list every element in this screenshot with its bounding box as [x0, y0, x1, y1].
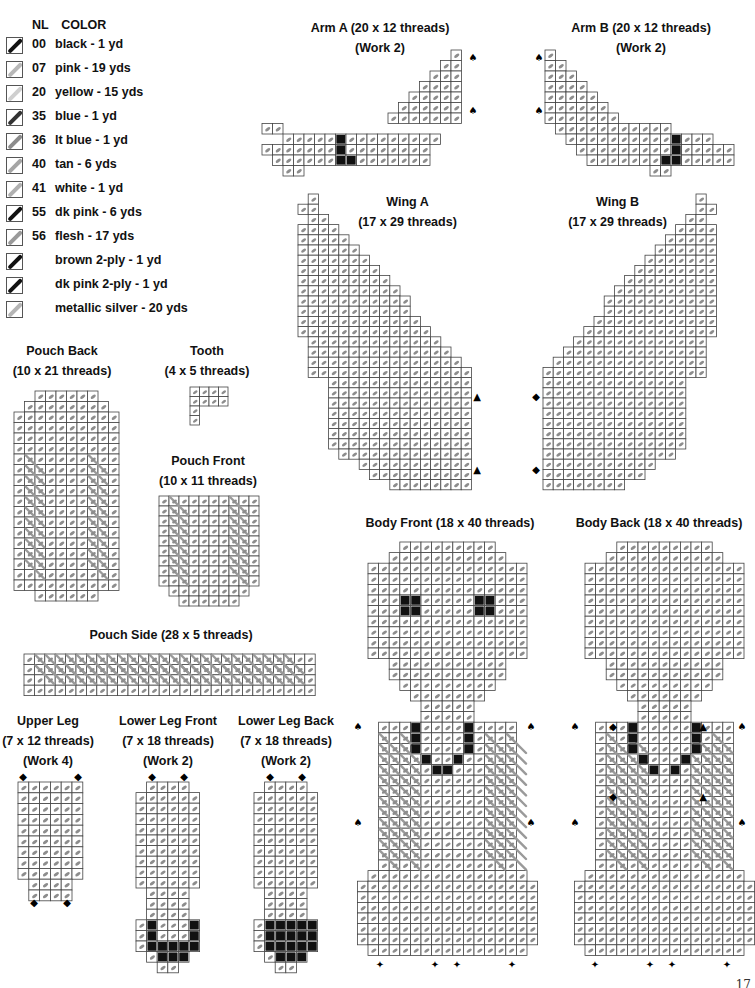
legend-nl: 00 [32, 37, 46, 51]
svg-text:✦: ✦ [591, 959, 599, 970]
svg-text:♠: ♠ [354, 817, 363, 828]
svg-text:◆: ◆ [30, 897, 38, 908]
svg-text:♠: ♠ [571, 817, 580, 828]
arm-b-chart: ♠♠ [535, 48, 755, 166]
svg-text:▲: ▲ [699, 721, 707, 732]
svg-text:◆: ◆ [74, 771, 82, 782]
pouch-side-title: Pouch Side (28 x 5 threads) [60, 625, 282, 645]
svg-text:♠: ♠ [354, 721, 363, 732]
lower-leg-back-title-text: Lower Leg Back [236, 711, 336, 731]
body-back-chart: ♠♠♠♠◆◆▲▲✦✦✦✦ [565, 540, 755, 980]
svg-text:◆: ◆ [609, 721, 617, 732]
legend-color: lt blue - 1 yd [55, 133, 128, 147]
legend-color: brown 2-ply - 1 yd [55, 253, 161, 267]
legend-color: metallic silver - 20 yds [55, 301, 188, 315]
pouch-side-title-text: Pouch Side (28 x 5 threads) [60, 625, 282, 645]
legend-color: white - 1 yd [55, 181, 123, 195]
svg-text:♠: ♠ [535, 105, 544, 116]
yarn-swatch-icon [6, 277, 23, 294]
pouch-front-title-text: Pouch Front [152, 451, 264, 471]
legend-header-nl: NL [32, 18, 49, 32]
svg-text:◆: ◆ [180, 771, 188, 782]
svg-text:✦: ✦ [723, 959, 731, 970]
body-front-chart: ♠♠♠♠✦✦✦✦ [350, 540, 550, 980]
yarn-swatch-icon [6, 133, 23, 150]
tooth-chart [186, 383, 231, 433]
svg-text:▲: ▲ [473, 391, 481, 402]
body-front-title: Body Front (18 x 40 threads) [352, 513, 548, 533]
yarn-swatch-icon [6, 157, 23, 174]
lower-leg-back-note: (Work 2) [236, 751, 336, 771]
legend-nl: 36 [32, 133, 46, 147]
legend-color: yellow - 15 yds [55, 85, 143, 99]
legend-color: pink - 19 yds [55, 61, 131, 75]
yarn-swatch-icon [6, 253, 23, 270]
svg-text:♠: ♠ [738, 817, 747, 828]
svg-text:✦: ✦ [646, 959, 654, 970]
lower-leg-back-size: (7 x 18 threads) [236, 731, 336, 751]
svg-text:◆: ◆ [532, 464, 540, 475]
upper-leg-chart: ◆◆◆◆ [14, 770, 94, 885]
pouch-back-size: (10 x 21 threads) [2, 361, 122, 381]
tooth-title-text: Tooth [152, 341, 262, 361]
yarn-swatch-icon [6, 37, 23, 54]
yarn-swatch-icon [6, 229, 23, 246]
pouch-side-chart [18, 650, 326, 700]
legend-nl: 56 [32, 229, 46, 243]
yarn-swatch-icon [6, 61, 23, 78]
page-number: 17 [736, 978, 751, 988]
svg-text:✦: ✦ [431, 959, 439, 970]
wing-a-chart: ▲▲ [290, 188, 490, 500]
lower-leg-front-chart: ◆◆ [132, 770, 212, 970]
legend-nl: 40 [32, 157, 46, 171]
svg-text:◆: ◆ [609, 791, 617, 802]
pouch-front-title: Pouch Front (10 x 11 threads) [152, 451, 264, 491]
lower-leg-front-size: (7 x 18 threads) [118, 731, 218, 751]
pouch-back-title: Pouch Back (10 x 21 threads) [2, 341, 122, 381]
svg-text:▲: ▲ [699, 791, 707, 802]
legend-color: blue - 1 yd [55, 109, 117, 123]
lower-leg-back-title: Lower Leg Back (7 x 18 threads) (Work 2) [236, 711, 336, 771]
svg-text:◆: ◆ [266, 771, 274, 782]
svg-text:✦: ✦ [508, 959, 516, 970]
svg-text:♠: ♠ [469, 52, 478, 63]
lower-leg-front-title-text: Lower Leg Front [118, 711, 218, 731]
lower-leg-front-title: Lower Leg Front (7 x 18 threads) (Work 2… [118, 711, 218, 771]
lower-leg-back-chart: ◆◆ [250, 770, 330, 970]
upper-leg-note: (Work 4) [0, 751, 96, 771]
legend-nl: 55 [32, 205, 46, 219]
legend-nl: 35 [32, 109, 46, 123]
upper-leg-size: (7 x 12 threads) [0, 731, 96, 751]
legend-color: black - 1 yd [55, 37, 123, 51]
svg-text:✦: ✦ [453, 959, 461, 970]
svg-text:♠: ♠ [535, 52, 544, 63]
legend-nl: 41 [32, 181, 46, 195]
legend-nl: 20 [32, 85, 46, 99]
upper-leg-title: Upper Leg (7 x 12 threads) (Work 4) [0, 711, 96, 771]
svg-text:♠: ♠ [571, 721, 580, 732]
svg-text:♠: ♠ [527, 817, 536, 828]
tooth-size: (4 x 5 threads) [152, 361, 262, 381]
svg-text:✦: ✦ [668, 959, 676, 970]
arm-b-title-text: Arm B (20 x 12 threads) [528, 18, 754, 38]
svg-text:♠: ♠ [527, 721, 536, 732]
svg-text:✦: ✦ [376, 959, 384, 970]
legend-header-color: COLOR [61, 18, 106, 32]
arm-a-title-text: Arm A (20 x 12 threads) [262, 18, 498, 38]
body-back-title: Body Back (18 x 40 threads) [564, 513, 754, 533]
pouch-back-title-text: Pouch Back [2, 341, 122, 361]
tooth-title: Tooth (4 x 5 threads) [152, 341, 262, 381]
yarn-swatch-icon [6, 301, 23, 318]
yarn-swatch-icon [6, 205, 23, 222]
svg-text:♠: ♠ [469, 105, 478, 116]
legend-nl: 07 [32, 61, 46, 75]
legend-color: tan - 6 yds [55, 157, 117, 171]
pouch-front-size: (10 x 11 threads) [152, 471, 264, 491]
legend-color: dk pink 2-ply - 1 yd [55, 277, 168, 291]
pouch-front-chart [157, 494, 267, 609]
svg-text:♠: ♠ [738, 721, 747, 732]
yarn-swatch-icon [6, 85, 23, 102]
legend-header: NL COLOR [32, 18, 106, 32]
body-back-title-text: Body Back (18 x 40 threads) [564, 513, 754, 533]
arm-a-chart: ♠♠ [260, 48, 500, 166]
